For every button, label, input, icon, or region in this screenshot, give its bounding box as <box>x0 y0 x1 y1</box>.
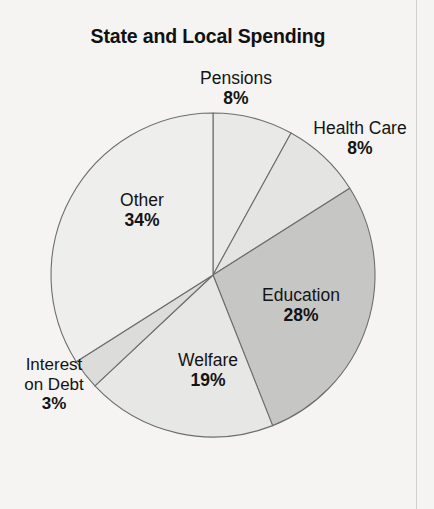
slice-label-health-care-pct: 8% <box>292 138 428 158</box>
slice-label-health-care-name: Health Care <box>292 118 428 138</box>
slice-label-pensions: Pensions 8% <box>176 68 296 109</box>
slice-label-welfare-name: Welfare <box>152 350 264 370</box>
slice-label-other-name: Other <box>90 190 194 210</box>
slice-label-pensions-pct: 8% <box>176 88 296 108</box>
slice-label-education: Education 28% <box>238 285 364 326</box>
slice-label-other-pct: 34% <box>90 210 194 230</box>
slice-label-health-care: Health Care 8% <box>292 118 428 159</box>
slice-label-education-pct: 28% <box>238 305 364 325</box>
chart-page: State and Local Spending Pensions 8% Hea… <box>0 0 434 509</box>
slice-label-other: Other 34% <box>90 190 194 231</box>
slice-label-education-name: Education <box>238 285 364 305</box>
slice-label-welfare-pct: 19% <box>152 370 264 390</box>
slice-label-pensions-name: Pensions <box>176 68 296 88</box>
slice-label-interest-on-debt-name-line1: Interest <box>2 355 106 375</box>
slice-label-interest-on-debt-pct: 3% <box>2 394 106 414</box>
slice-label-interest-on-debt-name-line2: on Debt <box>2 375 106 395</box>
slice-label-interest-on-debt: Interest on Debt 3% <box>2 355 106 414</box>
slice-label-welfare: Welfare 19% <box>152 350 264 391</box>
